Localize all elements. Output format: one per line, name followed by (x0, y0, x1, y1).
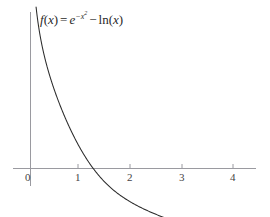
x-tick-label-1: 1 (75, 172, 81, 183)
x-tick-label-0: 0 (25, 172, 31, 183)
equation-ln-close-paren: ) (119, 12, 123, 27)
equation-equals: = (58, 12, 69, 27)
x-tick-label-2: 2 (127, 172, 133, 183)
x-tick-label-3: 3 (179, 172, 185, 183)
x-axis-ticks (31, 164, 234, 169)
x-tick-label-4: 4 (230, 172, 236, 183)
equation-exponent: −x2 (75, 12, 87, 21)
equation-ln-name: ln (99, 12, 109, 27)
plot-canvas (0, 0, 270, 217)
equation-annotation: f(x)=e−x2−ln(x) (40, 13, 123, 26)
equation-minus: − (87, 12, 98, 27)
function-plot-figure: 0 1 2 3 4 f(x)=e−x2−ln(x) (0, 0, 270, 217)
function-curve (36, 7, 238, 217)
